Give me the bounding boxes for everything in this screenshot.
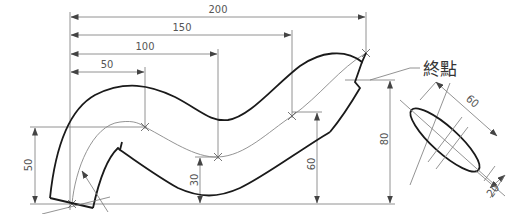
- dim-200: 200: [209, 3, 228, 16]
- end-point-label: 終點: [423, 59, 457, 79]
- end-point-leader: 終點: [370, 59, 457, 80]
- dim-v60: 60: [305, 158, 318, 171]
- pipe-outline: [50, 53, 366, 208]
- dim-v50: 50: [22, 159, 35, 172]
- dim-100: 100: [136, 40, 155, 53]
- ellipse-section: 60 20: [400, 82, 505, 200]
- vertical-dimensions: 50 30 60 80: [22, 81, 391, 203]
- dim-50: 50: [101, 58, 114, 71]
- path-point-markers: [68, 49, 370, 208]
- ellipse-minor-dim: 20: [484, 182, 502, 200]
- extension-lines: [30, 12, 395, 210]
- cad-drawing: 200 150 100 50 50 30 60 80: [0, 0, 510, 214]
- dim-v30: 30: [188, 174, 201, 187]
- ellipse-major-dim: 60: [463, 92, 481, 110]
- dim-150: 150: [173, 21, 192, 34]
- dim-v80: 80: [378, 133, 391, 146]
- sweep-path-centerline: [72, 53, 366, 204]
